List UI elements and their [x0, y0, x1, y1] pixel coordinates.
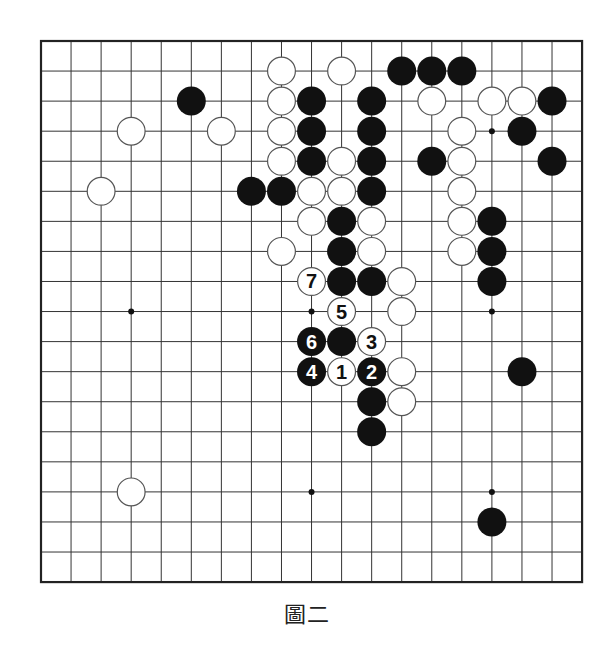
- move-number: 3: [366, 331, 377, 353]
- numbered-move-2: 2: [357, 357, 386, 386]
- white-stone: [117, 478, 145, 506]
- star-point: [309, 309, 315, 315]
- star-point: [489, 309, 495, 315]
- numbered-move-6: 6: [297, 327, 326, 356]
- figure-caption: 圖二: [0, 596, 614, 628]
- black-stone: [477, 267, 506, 296]
- black-stone: [477, 207, 506, 236]
- move-number: 2: [366, 361, 377, 383]
- stones: 1234567: [87, 57, 566, 537]
- white-stone: [298, 177, 326, 205]
- black-stone: [357, 87, 386, 116]
- black-stone: [327, 327, 356, 356]
- black-stone: [327, 237, 356, 266]
- white-stone: [328, 147, 356, 175]
- black-stone: [327, 207, 356, 236]
- black-stone: [357, 147, 386, 176]
- white-stone: [328, 177, 356, 205]
- go-board: 1234567: [0, 0, 614, 600]
- black-stone: [297, 87, 326, 116]
- black-stone: [357, 117, 386, 146]
- white-stone: [388, 358, 416, 386]
- white-stone: [448, 238, 476, 266]
- white-stone: [268, 57, 296, 85]
- white-stone: [328, 57, 356, 85]
- white-stone: [268, 117, 296, 145]
- move-number: 4: [306, 361, 318, 383]
- move-number: 1: [336, 361, 347, 383]
- move-number: 6: [306, 331, 317, 353]
- white-stone: [448, 117, 476, 145]
- black-stone: [477, 507, 506, 536]
- black-stone: [387, 57, 416, 86]
- white-stone: [448, 207, 476, 235]
- black-stone: [417, 57, 446, 86]
- black-stone: [357, 267, 386, 296]
- white-stone: [448, 147, 476, 175]
- black-stone: [538, 87, 567, 116]
- white-stone: [268, 238, 296, 266]
- black-stone: [447, 57, 476, 86]
- star-point: [489, 128, 495, 134]
- black-stone: [357, 417, 386, 446]
- white-stone: [358, 238, 386, 266]
- white-stone: [388, 298, 416, 326]
- numbered-move-1: 1: [328, 358, 356, 386]
- white-stone: [87, 177, 115, 205]
- black-stone: [417, 147, 446, 176]
- black-stone: [538, 147, 567, 176]
- star-point: [489, 489, 495, 495]
- black-stone: [297, 147, 326, 176]
- numbered-move-5: 5: [328, 298, 356, 326]
- black-stone: [267, 177, 296, 206]
- black-stone: [507, 117, 536, 146]
- white-stone: [508, 87, 536, 115]
- white-stone: [358, 207, 386, 235]
- black-stone: [327, 267, 356, 296]
- white-stone: [268, 87, 296, 115]
- white-stone: [117, 117, 145, 145]
- white-stone: [388, 388, 416, 416]
- move-number: 5: [336, 301, 347, 323]
- star-point: [128, 309, 134, 315]
- black-stone: [177, 87, 206, 116]
- white-stone: [388, 268, 416, 296]
- go-board-diagram: 1234567: [0, 0, 614, 600]
- white-stone: [268, 147, 296, 175]
- star-point: [309, 489, 315, 495]
- black-stone: [237, 177, 266, 206]
- black-stone: [357, 387, 386, 416]
- numbered-move-3: 3: [358, 328, 386, 356]
- white-stone: [298, 207, 326, 235]
- numbered-move-4: 4: [297, 357, 326, 386]
- black-stone: [507, 357, 536, 386]
- black-stone: [477, 237, 506, 266]
- numbered-move-7: 7: [298, 268, 326, 296]
- black-stone: [357, 177, 386, 206]
- white-stone: [478, 87, 506, 115]
- white-stone: [448, 177, 476, 205]
- black-stone: [297, 117, 326, 146]
- white-stone: [418, 87, 446, 115]
- move-number: 7: [306, 270, 317, 292]
- white-stone: [207, 117, 235, 145]
